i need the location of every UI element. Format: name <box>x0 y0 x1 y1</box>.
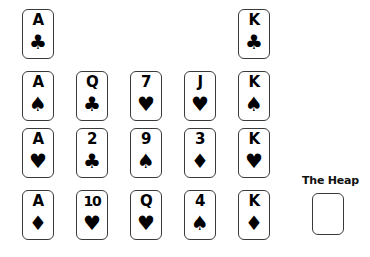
hearts-suit-icon: ♥ <box>137 93 155 115</box>
playing-card[interactable]: 4♠ <box>184 190 216 240</box>
card-rank: K <box>248 131 259 149</box>
card-rank: 10 <box>84 193 101 211</box>
playing-card[interactable]: 9♠ <box>130 128 162 178</box>
playing-card[interactable]: Q♣ <box>76 71 108 121</box>
clubs-suit-icon: ♣ <box>29 31 47 53</box>
diamonds-suit-icon: ♦ <box>245 212 263 234</box>
playing-card[interactable]: K♥ <box>238 128 270 178</box>
playing-card[interactable]: 7♥ <box>130 71 162 121</box>
heap-label: The Heap <box>302 174 359 187</box>
playing-card[interactable]: J♥ <box>184 71 216 121</box>
clubs-suit-icon: ♣ <box>83 93 101 115</box>
hearts-suit-icon: ♥ <box>245 150 263 172</box>
diamonds-suit-icon: ♦ <box>29 212 47 234</box>
card-rank: A <box>32 193 43 211</box>
playing-card[interactable]: K♦ <box>238 190 270 240</box>
spades-suit-icon: ♠ <box>137 150 155 172</box>
card-rank: Q <box>140 193 152 211</box>
card-rank: 3 <box>195 131 205 149</box>
playing-card[interactable]: 2♣ <box>76 128 108 178</box>
playing-card[interactable]: A♠ <box>22 71 54 121</box>
hearts-suit-icon: ♥ <box>191 93 209 115</box>
card-rank: Q <box>86 74 98 92</box>
hearts-suit-icon: ♥ <box>29 150 47 172</box>
playing-card[interactable]: K♠ <box>238 71 270 121</box>
playing-card[interactable]: 3♦ <box>184 128 216 178</box>
spades-suit-icon: ♠ <box>29 93 47 115</box>
playing-card[interactable]: A♣ <box>22 9 54 59</box>
card-rank: J <box>198 74 203 92</box>
playing-card[interactable]: 10♥ <box>76 190 108 240</box>
card-rank: 4 <box>195 193 205 211</box>
spades-suit-icon: ♠ <box>191 212 209 234</box>
card-rank: K <box>248 193 259 211</box>
hearts-suit-icon: ♥ <box>137 212 155 234</box>
heap-slot[interactable] <box>312 193 344 235</box>
card-rank: 9 <box>141 131 151 149</box>
card-rank: A <box>32 74 43 92</box>
playing-card[interactable]: A♦ <box>22 190 54 240</box>
clubs-suit-icon: ♣ <box>83 150 101 172</box>
card-rank: A <box>32 12 43 30</box>
clubs-suit-icon: ♣ <box>245 31 263 53</box>
spades-suit-icon: ♠ <box>245 93 263 115</box>
card-board: A♣K♣A♠Q♣7♥J♥K♠A♥2♣9♠3♦K♥A♦10♥Q♥4♠K♦The H… <box>0 0 370 257</box>
card-rank: A <box>32 131 43 149</box>
card-rank: K <box>248 12 259 30</box>
playing-card[interactable]: K♣ <box>238 9 270 59</box>
card-rank: K <box>248 74 259 92</box>
playing-card[interactable]: Q♥ <box>130 190 162 240</box>
hearts-suit-icon: ♥ <box>83 212 101 234</box>
diamonds-suit-icon: ♦ <box>191 150 209 172</box>
card-rank: 2 <box>87 131 97 149</box>
card-rank: 7 <box>141 74 151 92</box>
playing-card[interactable]: A♥ <box>22 128 54 178</box>
